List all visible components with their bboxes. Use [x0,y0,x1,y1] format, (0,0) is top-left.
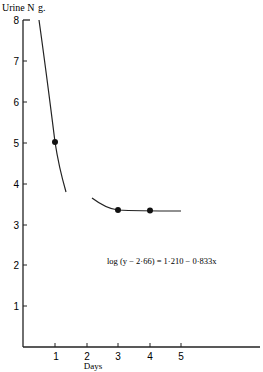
data-point-day-4 [147,208,153,214]
equation-annotation: log (y − 2·66) = 1·210 − 0·833x [107,256,217,266]
curve-fitted-plateau [92,198,181,211]
x-tick-1: 1 [53,351,59,362]
y-axis-title: Urine N [2,2,35,13]
x-tick-5: 5 [178,351,184,362]
chart: 8 7 6 5 4 3 2 1 1 2 3 4 5 Urine N g. Day… [0,0,263,372]
y-tick-2: 2 [13,260,19,271]
x-axis-title: Days [84,361,103,371]
y-axis-unit: g. [38,2,46,13]
data-point-day-3 [115,207,121,213]
y-tick-7: 7 [13,56,19,67]
y-tick-1: 1 [13,301,19,312]
x-tick-4: 4 [147,351,153,362]
y-tick-4: 4 [13,179,19,190]
curve-early-decline [39,20,66,192]
y-tick-3: 3 [13,220,19,231]
y-tick-8: 8 [13,15,19,26]
x-tick-3: 3 [115,351,121,362]
data-point-day-1 [52,139,58,145]
y-tick-5: 5 [13,138,19,149]
y-tick-6: 6 [13,97,19,108]
